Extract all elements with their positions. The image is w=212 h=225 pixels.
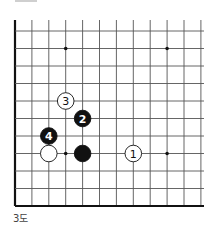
star-point <box>64 152 68 156</box>
black-stone-2: 2 <box>74 110 91 127</box>
star-point <box>64 47 68 51</box>
black-stone-4: 4 <box>41 128 58 145</box>
move-number: 1 <box>130 148 137 161</box>
move-number: 2 <box>79 113 87 126</box>
white-stone-1: 1 <box>125 145 142 162</box>
board-grid <box>15 20 204 206</box>
move-number: 3 <box>62 95 69 108</box>
black-stone <box>74 145 91 162</box>
go-board: 1234 <box>0 0 212 210</box>
white-stone <box>41 145 58 162</box>
star-point <box>165 152 169 156</box>
move-number: 4 <box>45 130 53 143</box>
diagram-caption: 3도 <box>13 210 28 225</box>
white-stone-3: 3 <box>57 93 74 110</box>
stones: 1234 <box>41 93 142 162</box>
star-point <box>165 47 169 51</box>
